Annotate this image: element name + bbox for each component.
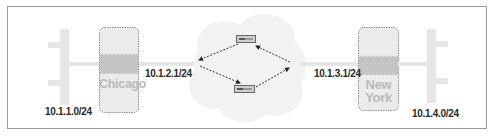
right-subnet-label: 10.1.4.0/24 [412, 108, 459, 119]
left-subnet-label: 10.1.1.0/24 [45, 106, 92, 117]
left-lan-bus [48, 29, 99, 105]
cloud-router-bottom[interactable] [235, 86, 255, 93]
right-lan-bus [398, 29, 448, 103]
newyork-wan-link [300, 62, 358, 66]
chicago-wan-link [138, 62, 198, 66]
newyork-interface-label: 10.1.3.1/24 [314, 68, 361, 79]
newyork-label: New York [358, 78, 399, 104]
newyork-label-line2: York [358, 91, 399, 104]
chicago-interface-label: 10.1.2.1/24 [145, 68, 192, 79]
chicago-label: Chicago [99, 78, 139, 91]
cloud-router-top[interactable] [237, 36, 256, 43]
chicago-router[interactable] [100, 28, 139, 113]
wan-cloud [189, 14, 306, 122]
